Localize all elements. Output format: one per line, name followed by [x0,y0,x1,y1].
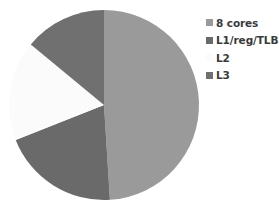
pie-chart [0,0,205,208]
legend-item-8-cores: 8 cores [206,14,278,32]
legend-swatch-icon [206,37,213,44]
legend-swatch-icon [206,19,213,26]
pie-slice-8-cores [104,10,199,200]
legend-item-l1-reg-tlb: L1/reg/TLB [206,32,278,50]
legend-label: L1/reg/TLB [216,34,278,46]
legend-item-l2: L2 [206,49,278,67]
legend-label: L2 [216,52,230,64]
legend-item-l3: L3 [206,67,278,85]
chart-legend: 8 cores L1/reg/TLB L2 L3 [206,14,278,84]
legend-swatch-icon [206,72,213,79]
legend-swatch-icon [206,54,213,61]
legend-label: 8 cores [216,17,258,29]
legend-label: L3 [216,69,230,81]
